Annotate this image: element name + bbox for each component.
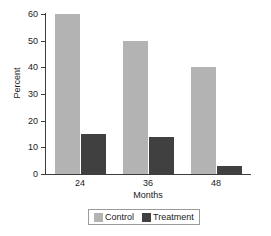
bar-treatment-24 bbox=[81, 134, 106, 174]
y-tick-label: 50 bbox=[14, 37, 38, 46]
bar-chart-figure: Percent Months 0102030405060 243648 Cont… bbox=[0, 0, 271, 236]
bar-treatment-48 bbox=[217, 166, 242, 174]
y-tick-mark bbox=[41, 67, 45, 68]
chart-legend: ControlTreatment bbox=[88, 209, 200, 225]
y-tick-mark bbox=[41, 41, 45, 42]
plot-area bbox=[46, 14, 250, 174]
y-tick-label: 10 bbox=[14, 143, 38, 152]
bar-control-36 bbox=[123, 41, 148, 174]
y-tick-label: 60 bbox=[14, 10, 38, 19]
bar-control-48 bbox=[191, 67, 216, 174]
y-tick-mark bbox=[41, 174, 45, 175]
legend-entry-treatment: Treatment bbox=[142, 212, 194, 222]
x-tick-label: 24 bbox=[60, 178, 100, 188]
y-tick-mark bbox=[41, 14, 45, 15]
legend-entry-control: Control bbox=[94, 212, 134, 222]
x-axis-line bbox=[45, 174, 251, 175]
y-tick-mark bbox=[41, 147, 45, 148]
x-axis-title: Months bbox=[46, 190, 250, 200]
x-tick-label: 36 bbox=[128, 178, 168, 188]
y-tick-mark bbox=[41, 94, 45, 95]
y-tick-label: 40 bbox=[14, 63, 38, 72]
y-tick-mark bbox=[41, 121, 45, 122]
x-tick-label: 48 bbox=[196, 178, 236, 188]
legend-swatch-treatment bbox=[142, 213, 151, 222]
y-tick-label: 20 bbox=[14, 117, 38, 126]
y-tick-label: 0 bbox=[14, 170, 38, 179]
y-axis-title: Percent bbox=[12, 53, 22, 113]
legend-label-control: Control bbox=[105, 212, 134, 222]
bar-control-24 bbox=[55, 14, 80, 174]
legend-label-treatment: Treatment bbox=[153, 212, 194, 222]
legend-swatch-control bbox=[94, 213, 103, 222]
y-tick-label: 30 bbox=[14, 90, 38, 99]
bar-treatment-36 bbox=[149, 137, 174, 174]
